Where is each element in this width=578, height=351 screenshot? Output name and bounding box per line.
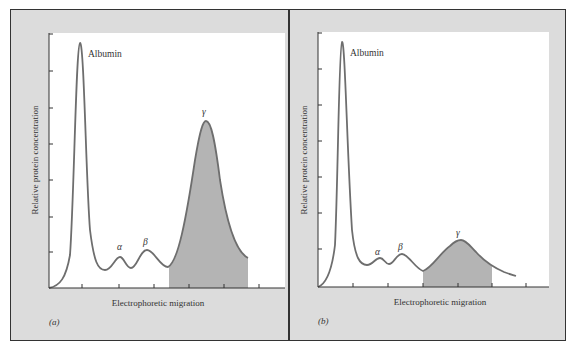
y-axis-label-a: Relative protein concentration bbox=[30, 105, 40, 214]
plot-area-b bbox=[318, 32, 549, 287]
gamma-label-b: γ bbox=[456, 228, 460, 238]
panel-b: Albumin α β γ Electrophoretic migration … bbox=[299, 32, 549, 326]
panel-label-a: (a) bbox=[49, 317, 60, 327]
albumin-label-b: Albumin bbox=[350, 48, 384, 58]
panel-label-b: (b) bbox=[318, 316, 329, 326]
beta-label-b: β bbox=[397, 242, 403, 252]
panel-a: Albumin α β γ Electrophoretic migration … bbox=[30, 33, 285, 327]
x-axis-label-a: Electrophoretic migration bbox=[112, 298, 205, 308]
albumin-label-a: Albumin bbox=[88, 49, 122, 59]
plot-area-a bbox=[49, 33, 285, 288]
x-axis-label-b: Electrophoretic migration bbox=[394, 297, 487, 307]
gamma-label-a: γ bbox=[202, 107, 206, 117]
beta-label-a: β bbox=[142, 237, 148, 247]
figure-svg: Albumin α β γ Electrophoretic migration … bbox=[0, 0, 578, 351]
y-axis-label-b: Relative protein concentration bbox=[299, 105, 309, 214]
